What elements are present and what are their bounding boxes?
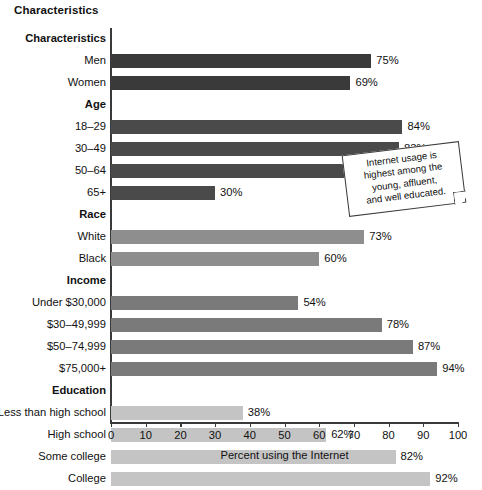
bar-row-label: College [68,472,106,484]
bar-value-label: 94% [442,362,464,374]
group-header-label: Education [52,384,106,396]
bar-value-label: 87% [418,340,440,352]
x-axis-tick-label: 60 [313,429,325,441]
bar-row-label: Women [68,76,106,88]
bar-row-label: Less than high school [0,406,106,418]
bar-value-label: 60% [324,252,346,264]
bar [111,296,298,310]
bar-value-label: 84% [407,120,429,132]
x-axis-tick [458,422,459,427]
bar-row: College92% [0,468,482,490]
bar-row-label: Black [79,252,106,264]
bar [111,252,319,266]
x-axis-tick-label: 100 [449,429,468,441]
bar [111,230,364,244]
bar [111,472,430,486]
bar-row-label: $75,000+ [59,362,106,374]
x-axis-tick-label: 90 [417,429,429,441]
x-axis-tick [146,422,147,427]
bar-row: $75,000+94% [0,358,482,380]
bar-row: $50–74,99987% [0,336,482,358]
x-axis-tick [423,422,424,427]
x-axis-tick-label: 50 [278,429,290,441]
label-column-header: Characteristics [14,4,99,16]
x-axis-tick-label: 10 [139,429,151,441]
group-header-label: Race [79,208,106,220]
bar-row: 18–2984% [0,116,482,138]
bar-row: Women69% [0,72,482,94]
bar-row-label: Men [84,54,106,66]
group-header-label: Characteristics [25,32,106,44]
x-axis-title: Percent using the Internet [110,449,459,461]
x-axis-tick [215,422,216,427]
x-axis-tick [250,422,251,427]
bar-row-label: Under $30,000 [32,296,106,308]
bar [111,362,437,376]
bar [111,120,402,134]
bar [111,164,357,178]
group-header-row: Income [0,270,482,292]
x-axis-tick-label: 70 [348,429,360,441]
group-header-label: Age [85,98,106,110]
x-axis-tick [389,422,390,427]
x-axis-tick [319,422,320,427]
bar-row-label: $30–49,999 [47,318,106,330]
x-axis-tick [285,422,286,427]
bar-row-label: 30–49 [75,142,106,154]
x-axis-tick-label: 30 [209,429,221,441]
x-axis-tick [180,422,181,427]
bar [111,186,215,200]
bar-value-label: 92% [435,472,457,484]
bar-row: Less than high school38% [0,402,482,424]
x-axis-tick [354,422,355,427]
bar-row-label: 50–64 [75,164,106,176]
bar-value-label: 30% [220,186,242,198]
bar-value-label: 38% [248,406,270,418]
bar-row: White73% [0,226,482,248]
bar [111,76,350,90]
bar [111,54,371,68]
bar-row-label: White [77,230,106,242]
group-header-row: Education [0,380,482,402]
bar-row: High school62% [0,424,482,446]
bar-row: Black60% [0,248,482,270]
bar-row-label: $50–74,999 [47,340,106,352]
bar-value-label: 73% [369,230,391,242]
group-header-label: Income [67,274,106,286]
bar-value-label: 69% [355,76,377,88]
bar-row-label: Some college [38,450,106,462]
bar [111,318,382,332]
bar-row-label: 18–29 [75,120,106,132]
bar [111,340,413,354]
bar-rows: CharacteristicsMen75%Women69%Age18–2984%… [0,28,482,490]
x-axis-tick-label: 0 [108,429,114,441]
x-axis-tick-label: 40 [244,429,256,441]
bar-row: Men75% [0,50,482,72]
bar-row-label: High school [48,428,106,440]
x-axis-tick-label: 80 [382,429,394,441]
x-axis-tick-label: 20 [174,429,186,441]
group-header-row: Age [0,94,482,116]
group-header-row: Characteristics [0,28,482,50]
bar-row: $30–49,99978% [0,314,482,336]
bar-row: Under $30,00054% [0,292,482,314]
bar-row-label: 65+ [87,186,106,198]
bar-value-label: 78% [387,318,409,330]
x-axis-tick [111,422,112,427]
bar-value-label: 54% [303,296,325,308]
bar [111,406,243,420]
bar-value-label: 75% [376,54,398,66]
